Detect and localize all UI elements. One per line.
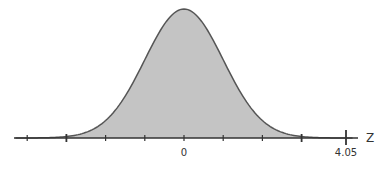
tick-label-4-05: 4.05 (335, 147, 357, 158)
axis-label-z: Z (366, 131, 374, 145)
tick-label-zero: 0 (181, 147, 187, 158)
normal-distribution-chart: 0 4.05 Z (0, 0, 387, 171)
shaded-area (66, 9, 301, 138)
